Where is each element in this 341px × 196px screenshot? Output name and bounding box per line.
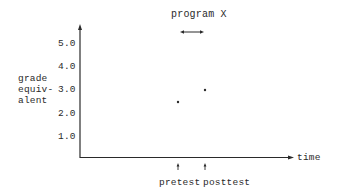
x-axis-arrowhead-icon — [288, 156, 294, 160]
y-axis-label-line-2: equiv- — [18, 84, 53, 95]
chart-canvas — [0, 0, 341, 196]
y-tick-4: 4.0 — [58, 61, 76, 72]
pretest-label: pretest — [159, 177, 200, 188]
posttest-marker-arrow-icon — [204, 163, 207, 167]
x-axis-label: time — [297, 152, 321, 163]
span-arrowhead-right-icon — [200, 30, 204, 33]
pretest-marker-arrow-icon — [177, 163, 180, 167]
posttest-label: posttest — [203, 177, 250, 188]
y-tick-5: 5.0 — [58, 38, 76, 49]
data-point-posttest — [204, 89, 206, 91]
y-tick-3: 3.0 — [58, 84, 76, 95]
data-point-pretest — [177, 101, 179, 103]
y-tick-1: 1.0 — [58, 131, 76, 142]
span-arrowhead-left-icon — [180, 30, 184, 33]
y-tick-2: 2.0 — [58, 108, 76, 119]
y-axis-label-line-3: alent — [18, 95, 48, 106]
y-axis-arrowhead-icon — [78, 24, 82, 30]
chart-title: program X — [171, 9, 227, 20]
y-axis-label-line-1: grade — [18, 73, 48, 84]
